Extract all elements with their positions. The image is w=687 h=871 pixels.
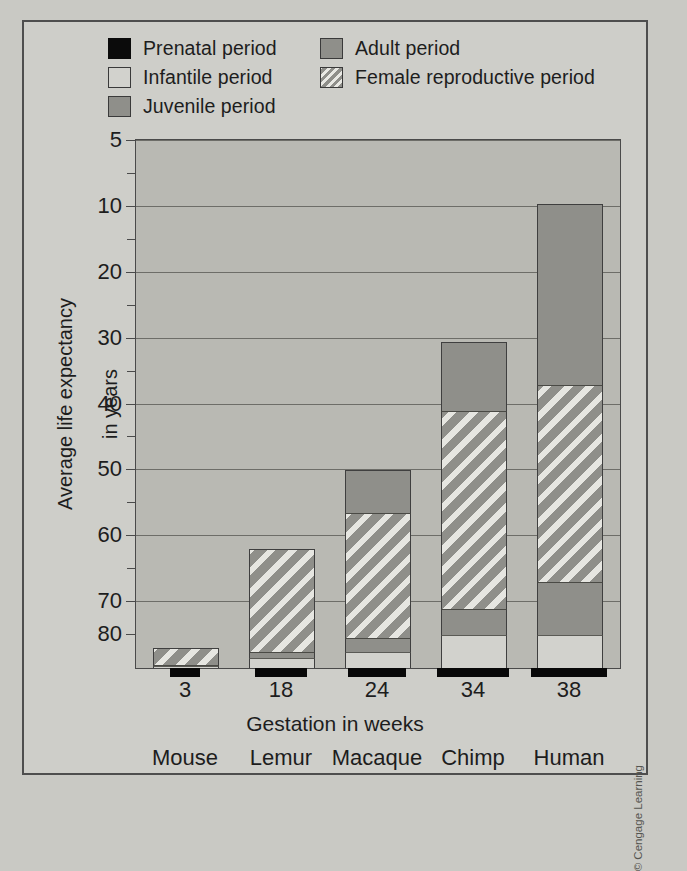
bar-human (537, 204, 603, 668)
bar-segment-lemur-female (249, 549, 315, 651)
gridline-80 (136, 140, 620, 141)
prenatal-bar-human (531, 668, 607, 677)
y-minor-tick-25 (127, 502, 136, 503)
legend-item-prenatal: Prenatal period (108, 34, 277, 63)
y-tick-20 (126, 535, 136, 536)
legend-label-adult: Adult period (355, 37, 460, 60)
y-tick-label-10: 70 (98, 588, 122, 614)
y-tick-10 (126, 601, 136, 602)
bar-mouse (153, 648, 219, 668)
legend-label-juvenile: Juvenile period (143, 95, 276, 118)
bar-segment-chimp-infantile (441, 635, 507, 668)
y-minor-tick-35 (127, 436, 136, 437)
prenatal-swatch-icon (108, 38, 131, 59)
prenatal-bar-chimp (437, 668, 509, 677)
legend-item-juvenile: Juvenile period (108, 92, 277, 121)
x-category-label-lemur: Lemur (226, 745, 336, 771)
x-axis-title: Gestation in weeks (24, 712, 646, 736)
y-minor-tick-65 (127, 239, 136, 240)
x-tick-label-gestation-lemur: 18 (241, 677, 321, 703)
legend-item-adult: Adult period (320, 34, 595, 63)
bar-segment-mouse-juvenile (153, 665, 219, 666)
bar-segment-chimp-juvenile (441, 609, 507, 635)
legend-label-infantile: Infantile period (143, 66, 273, 89)
chart-legend: Prenatal period Infantile period Juvenil… (108, 34, 628, 126)
bar-segment-macaque-female (345, 513, 411, 638)
x-tick-label-gestation-human: 38 (529, 677, 609, 703)
legend-label-prenatal: Prenatal period (143, 37, 277, 60)
bar-segment-lemur-juvenile (249, 652, 315, 659)
figure-frame: Prenatal period Infantile period Juvenil… (22, 20, 648, 775)
bar-macaque (345, 470, 411, 668)
x-category-label-chimp: Chimp (418, 745, 528, 771)
prenatal-bar-mouse (170, 668, 200, 677)
x-tick-label-gestation-mouse: 3 (145, 677, 225, 703)
y-tick-40 (126, 404, 136, 405)
y-minor-tick-15 (127, 568, 136, 569)
plot-area: 80706050403020105 (135, 139, 621, 669)
y-tick-label-40: 40 (98, 391, 122, 417)
prenatal-bar-macaque (348, 668, 406, 677)
bar-segment-chimp-adult (441, 342, 507, 411)
bar-segment-human-adult (537, 204, 603, 385)
bar-lemur (249, 549, 315, 668)
y-tick-label-70: 10 (98, 193, 122, 219)
legend-label-female-reproductive: Female reproductive period (355, 66, 595, 89)
bar-segment-macaque-infantile (345, 652, 411, 668)
female-reproductive-swatch-icon (320, 67, 343, 88)
y-minor-tick-75 (127, 173, 136, 174)
copyright-credit: © Cengage Learning (632, 765, 644, 871)
bar-segment-lemur-infantile (249, 658, 315, 668)
y-minor-tick-45 (127, 371, 136, 372)
bar-segment-macaque-juvenile (345, 638, 411, 651)
prenatal-bar-lemur (255, 668, 307, 677)
y-tick-label-20: 60 (98, 522, 122, 548)
y-tick-80 (126, 140, 136, 141)
y-tick-70 (126, 206, 136, 207)
bar-segment-human-infantile (537, 635, 603, 668)
bar-segment-macaque-adult (345, 470, 411, 513)
bar-segment-mouse-female (153, 648, 219, 664)
y-tick-label-5: 80 (98, 621, 122, 647)
y-tick-label-80: 5 (110, 127, 122, 153)
bar-segment-human-female (537, 385, 603, 583)
x-category-label-human: Human (514, 745, 624, 771)
y-axis-title-line1: Average life expectancy (54, 298, 76, 510)
bar-chimp (441, 342, 507, 668)
bar-segment-human-juvenile (537, 582, 603, 635)
infantile-swatch-icon (108, 67, 131, 88)
legend-column-right: Adult period Female reproductive period (320, 34, 595, 92)
bar-segment-chimp-female (441, 411, 507, 609)
adult-swatch-icon (320, 38, 343, 59)
legend-column-left: Prenatal period Infantile period Juvenil… (108, 34, 277, 121)
legend-item-infantile: Infantile period (108, 63, 277, 92)
y-tick-5 (126, 634, 136, 635)
y-tick-label-60: 20 (98, 259, 122, 285)
juvenile-swatch-icon (108, 96, 131, 117)
y-tick-60 (126, 272, 136, 273)
legend-item-female-reproductive: Female reproductive period (320, 63, 595, 92)
y-tick-label-30: 50 (98, 456, 122, 482)
x-category-label-macaque: Macaque (322, 745, 432, 771)
y-tick-30 (126, 469, 136, 470)
x-tick-label-gestation-macaque: 24 (337, 677, 417, 703)
y-minor-tick-55 (127, 305, 136, 306)
x-tick-label-gestation-chimp: 34 (433, 677, 513, 703)
x-category-label-mouse: Mouse (130, 745, 240, 771)
y-tick-50 (126, 338, 136, 339)
y-tick-label-50: 30 (98, 325, 122, 351)
